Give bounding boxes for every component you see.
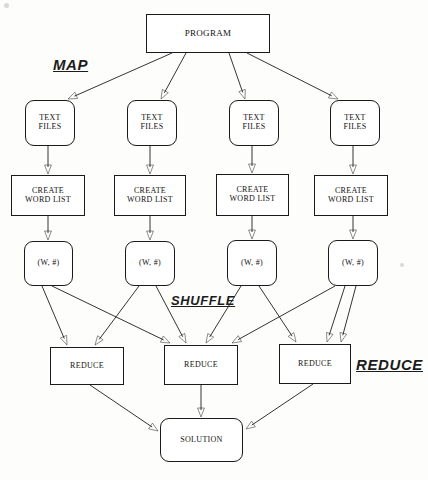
edge-program-to-text2 [161,53,186,99]
edge-pair4-to-reduce3-b [340,286,356,342]
solution-node[interactable]: SOLUTION [160,418,243,462]
text-files-node-4[interactable]: TEXT FILES [330,100,380,146]
stage-label-shuffle: SHUFFLE [171,293,235,308]
word-count-pair-node-1-label: (W, #) [38,259,60,268]
text-files-node-1[interactable]: TEXT FILES [25,100,75,146]
edge-pair1-to-reduce1 [42,286,67,345]
word-count-pair-node-1[interactable]: (W, #) [24,241,73,286]
edge-cwl4-to-pair4 [350,216,357,239]
edge-cwl1-to-pair1 [45,216,52,240]
reduce-node-3-label: REDUCE [298,360,332,369]
text-files-node-1-label: TEXT FILES [39,114,62,132]
create-word-list-node-3-label: CREATE WORD LIST [229,186,275,204]
program-node[interactable]: PROGRAM [146,14,270,53]
word-count-pair-node-4-label: (W, #) [342,259,364,268]
scan-speck-right [400,263,404,267]
text-files-node-3-label: TEXT FILES [243,114,266,132]
edge-text3-to-cwl3 [249,146,256,173]
create-word-list-node-1-label: CREATE WORD LIST [25,187,71,205]
text-files-node-4-label: TEXT FILES [344,114,367,132]
edge-text1-to-cwl1 [45,146,52,174]
create-word-list-node-3[interactable]: CREATE WORD LIST [216,174,289,216]
edge-program-to-text3 [229,53,245,99]
reduce-node-3[interactable]: REDUCE [279,344,351,384]
solution-node-label: SOLUTION [180,436,222,445]
edge-pair1-to-reduce2 [52,286,170,343]
edge-cwl3-to-pair3 [249,216,256,239]
text-files-node-2-label: TEXT FILES [141,114,164,132]
edge-reduce1-to-solution [90,385,158,431]
word-count-pair-node-3[interactable]: (W, #) [227,240,277,286]
reduce-node-2-label: REDUCE [184,361,218,370]
edge-text2-to-cwl2 [147,146,154,174]
create-word-list-node-1[interactable]: CREATE WORD LIST [11,175,85,216]
edge-reduce3-to-solution [246,384,313,429]
stage-label-map: MAP [53,56,88,73]
word-count-pair-node-3-label: (W, #) [241,259,263,268]
program-node-label: PROGRAM [185,28,232,38]
edge-cwl2-to-pair2 [147,216,154,240]
create-word-list-node-4[interactable]: CREATE WORD LIST [314,175,388,216]
edge-text4-to-cwl4 [350,146,357,174]
create-word-list-node-4-label: CREATE WORD LIST [328,187,374,205]
edge-reduce2-to-solution [198,385,205,417]
word-count-pair-node-4[interactable]: (W, #) [328,240,378,286]
reduce-node-1-label: REDUCE [70,362,104,371]
create-word-list-node-2-label: CREATE WORD LIST [127,187,173,205]
edge-program-to-text4 [247,53,338,99]
create-word-list-node-2[interactable]: CREATE WORD LIST [114,175,186,216]
text-files-node-2[interactable]: TEXT FILES [127,100,177,146]
scan-speck-top-left [4,3,9,8]
stage-label-reduce: REDUCE [356,356,423,373]
reduce-node-2[interactable]: REDUCE [164,345,238,385]
word-count-pair-node-2-label: (W, #) [139,259,161,268]
edge-pair4-to-reduce2 [232,286,335,343]
mapreduce-diagram: PROGRAMTEXT FILESTEXT FILESTEXT FILESTEX… [0,0,428,480]
text-files-node-3[interactable]: TEXT FILES [229,100,279,146]
reduce-node-1[interactable]: REDUCE [50,347,124,385]
edge-pair4-to-reduce3 [327,286,345,342]
edge-pair3-to-reduce3 [259,286,296,342]
word-count-pair-node-2[interactable]: (W, #) [125,241,175,286]
edge-pair2-to-reduce1 [95,286,139,345]
